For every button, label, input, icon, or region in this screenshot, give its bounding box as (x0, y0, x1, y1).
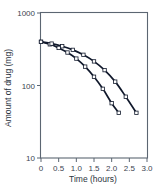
y-axis-title: Amount of drug (mg) (3, 49, 13, 127)
x-tick-label-2.0: 2.0 (106, 164, 118, 173)
data-point-marker (66, 51, 69, 54)
data-point-marker (82, 53, 85, 56)
x-axis-title: Time (hours) (69, 174, 117, 184)
y-tick-label-1000: 1000 (17, 9, 35, 18)
data-point-marker (75, 57, 78, 60)
canvas-background (0, 0, 164, 193)
data-point-marker (61, 45, 64, 48)
data-point-marker (117, 111, 120, 114)
x-tick-label-0: 0 (39, 164, 44, 173)
data-point-marker (92, 75, 95, 78)
y-tick-label-100: 100 (22, 82, 36, 91)
x-tick-label-1.5: 1.5 (88, 164, 100, 173)
x-tick-label-2.5: 2.5 (124, 164, 136, 173)
data-point-marker (101, 87, 104, 90)
figure: 101001000 00.51.01.52.02.53.0 Time (hour… (0, 0, 164, 193)
data-point-marker (124, 95, 127, 98)
data-point-marker (71, 48, 74, 51)
data-point-marker (92, 60, 95, 63)
data-point-marker (83, 65, 86, 68)
data-point-marker (114, 80, 117, 83)
data-point-marker (135, 111, 138, 114)
data-point-marker (50, 42, 53, 45)
x-tick-label-3.0: 3.0 (141, 164, 153, 173)
data-point-marker (110, 102, 113, 105)
x-tick-label-1.0: 1.0 (71, 164, 83, 173)
data-point-marker (103, 68, 106, 71)
semilog-plot: 101001000 00.51.01.52.02.53.0 Time (hour… (0, 0, 164, 193)
data-point-marker (39, 40, 42, 43)
data-point-marker (57, 46, 60, 49)
x-tick-label-0.5: 0.5 (53, 164, 65, 173)
y-tick-label-10: 10 (26, 154, 35, 163)
